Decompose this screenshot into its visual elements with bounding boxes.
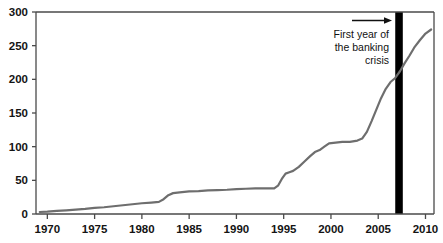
y-tick-label: 200 (9, 73, 28, 85)
x-tick-label: 1995 (271, 223, 297, 235)
x-tick-label: 1970 (35, 223, 61, 235)
y-axis: 050100150200250300 (9, 6, 36, 220)
x-tick-label: 2010 (413, 223, 439, 235)
y-tick-label: 250 (9, 40, 28, 52)
y-tick-label: 100 (9, 141, 28, 153)
y-tick-label: 0 (22, 208, 28, 220)
banking-crisis-band (395, 12, 403, 214)
x-tick-label: 1980 (129, 223, 155, 235)
x-tick-label: 1990 (224, 223, 250, 235)
x-axis: 197019751980198519901995200020052010 (35, 214, 439, 235)
annotation-line-2: the banking (335, 41, 389, 53)
y-tick-label: 150 (9, 107, 28, 119)
y-tick-label: 300 (9, 6, 28, 18)
y-tick-label: 50 (15, 174, 28, 186)
x-tick-label: 2000 (318, 223, 344, 235)
x-tick-label: 1985 (176, 223, 202, 235)
annotation-line-3: crisis (365, 54, 389, 66)
annotation-line-1: First year of (334, 28, 390, 40)
line-chart: 050100150200250300 197019751980198519901… (0, 0, 443, 243)
x-tick-label: 1975 (82, 223, 108, 235)
x-tick-label: 2005 (365, 223, 391, 235)
chart-container: 050100150200250300 197019751980198519901… (0, 0, 443, 243)
